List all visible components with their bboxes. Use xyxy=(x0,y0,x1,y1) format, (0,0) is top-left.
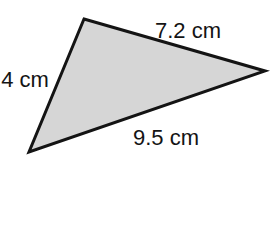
label-bottom-side: 9.5 cm xyxy=(133,125,199,150)
triangle-figure: 7.2 cm 4 cm 9.5 cm xyxy=(0,0,272,228)
label-left-side: 4 cm xyxy=(1,67,49,92)
label-top-side: 7.2 cm xyxy=(155,18,221,43)
triangle-svg: 7.2 cm 4 cm 9.5 cm xyxy=(0,0,272,228)
